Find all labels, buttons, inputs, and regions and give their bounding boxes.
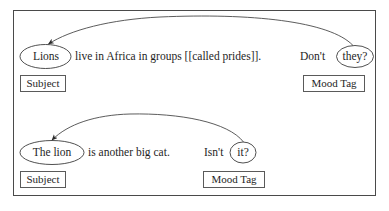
subject-tag-box-row-1: Subject xyxy=(20,75,66,92)
tag-lead-word-row-2: Isn't xyxy=(204,147,223,159)
subject-tag-box-row-2: Subject xyxy=(20,171,66,188)
mood-tag-box-row-2: Mood Tag xyxy=(203,171,265,188)
subject-node-label-row-1: Lions xyxy=(27,51,65,63)
figure-canvas: Lions live in Africa in groups [[called … xyxy=(0,0,389,211)
sentence-body-row-1: live in Africa in groups [[called prides… xyxy=(75,51,261,63)
subject-node-label-row-2: The lion xyxy=(27,147,77,159)
tag-lead-word-row-1: Don't xyxy=(300,51,325,63)
mood-tag-box-row-1: Mood Tag xyxy=(303,75,365,92)
figure-frame xyxy=(13,10,376,196)
mood-node-label-row-1: they? xyxy=(339,51,371,63)
sentence-body-row-2: is another big cat. xyxy=(88,147,170,159)
mood-node-label-row-2: it? xyxy=(233,147,253,159)
